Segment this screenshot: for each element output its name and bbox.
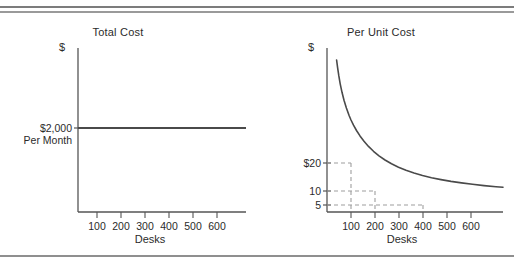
y-label-10-per-unit-cost: 10 [271, 185, 321, 197]
chart-total-cost: Total Cost $ $2,000 Per Month 100 200 30… [0, 22, 257, 247]
bottom-rule [0, 255, 514, 257]
figure-canvas: Total Cost $ $2,000 Per Month 100 200 30… [0, 0, 514, 267]
top-rule-upper [0, 6, 514, 8]
y-label-20-per-unit-cost: $20 [271, 157, 321, 169]
x-axis-title-total-cost: Desks [110, 233, 190, 245]
top-rule-lower [0, 11, 514, 13]
chart-per-unit-cost: Per Unit Cost $ [257, 22, 514, 247]
y-label-2000-amount: $2,000 [0, 122, 72, 134]
y-label-5-per-unit-cost: 5 [271, 199, 321, 211]
series-curve-per-unit-cost [337, 60, 503, 187]
y-label-2000-period: Per Month [0, 134, 72, 146]
x-tick-label-600-per-unit-cost: 600 [456, 220, 486, 232]
plot-area-per-unit-cost [257, 22, 514, 247]
x-axis-title-per-unit-cost: Desks [362, 233, 442, 245]
x-tick-label-600-total-cost: 600 [202, 220, 232, 232]
